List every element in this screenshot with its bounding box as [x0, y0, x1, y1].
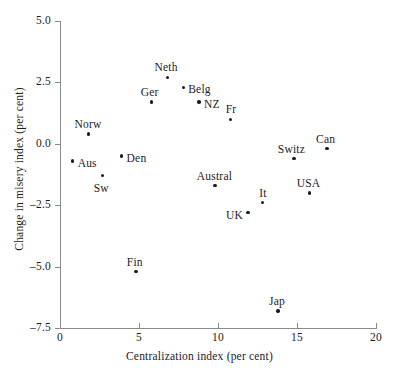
y-tick-label-wrap: 0.0 — [0, 138, 51, 150]
x-tick-label: 20 — [361, 331, 391, 344]
x-tick-label: 10 — [203, 331, 233, 344]
data-point-label: Sw — [94, 182, 109, 194]
data-point[interactable] — [71, 159, 74, 162]
x-tick-label: 15 — [282, 331, 312, 344]
data-point-label: USA — [297, 177, 321, 189]
y-tick-mark — [55, 144, 60, 145]
data-point-label: Switz — [278, 143, 305, 155]
x-tick-label: 0 — [45, 331, 75, 344]
y-tick-mark — [55, 328, 60, 329]
y-axis-title: Change in misery index (per cent) — [13, 64, 25, 274]
y-tick-label-wrap: –2.5 — [0, 199, 51, 211]
y-tick-label: –5.0 — [3, 261, 51, 273]
data-point[interactable] — [182, 86, 185, 89]
data-point-label: UK — [226, 209, 243, 221]
y-tick-mark — [55, 267, 60, 268]
data-point-label: Austral — [197, 170, 232, 182]
data-point[interactable] — [261, 201, 264, 204]
x-axis-title: Centralization index (per cent) — [0, 350, 399, 362]
data-point[interactable] — [308, 191, 311, 194]
data-point[interactable] — [87, 132, 90, 135]
y-tick-label: –2.5 — [3, 199, 51, 211]
data-point[interactable] — [197, 100, 200, 103]
y-axis-line — [60, 21, 61, 328]
data-point[interactable] — [246, 211, 249, 214]
y-tick-mark — [55, 21, 60, 22]
y-tick-mark — [55, 82, 60, 83]
x-tick-label: 5 — [124, 331, 154, 344]
data-point[interactable] — [229, 118, 232, 121]
data-point-label: Can — [316, 133, 335, 145]
data-point-label: Neth — [154, 61, 177, 73]
data-point-label: NZ — [204, 98, 220, 110]
data-point-label: Den — [127, 152, 147, 164]
data-point[interactable] — [325, 147, 328, 150]
data-point-label: Belg — [188, 83, 211, 95]
x-tick-mark — [376, 323, 377, 328]
data-point-label: It — [259, 187, 266, 199]
y-tick-mark — [55, 205, 60, 206]
data-point[interactable] — [101, 174, 104, 177]
y-tick-label-wrap: –5.0 — [0, 261, 51, 273]
data-point-label: Norw — [74, 118, 101, 130]
data-point-label: Aus — [78, 157, 97, 169]
x-tick-mark — [297, 323, 298, 328]
y-tick-label: 2.5 — [3, 76, 51, 88]
y-tick-label: 0.0 — [3, 138, 51, 150]
data-point-label: Fin — [127, 256, 143, 268]
data-point-label: Jap — [269, 295, 285, 307]
data-point[interactable] — [166, 76, 169, 79]
y-tick-label-wrap: 5.0 — [0, 15, 51, 27]
x-tick-mark — [218, 323, 219, 328]
y-tick-label: –7.5 — [3, 322, 51, 334]
data-point-label: Ger — [141, 86, 159, 98]
x-axis-line — [60, 328, 377, 329]
data-point-label: Fr — [226, 103, 237, 115]
data-point[interactable] — [276, 309, 279, 312]
y-tick-label: 5.0 — [3, 15, 51, 27]
y-tick-label-wrap: –7.5 — [0, 322, 51, 334]
data-point[interactable] — [213, 184, 216, 187]
data-point[interactable] — [134, 270, 137, 273]
y-tick-label-wrap: 2.5 — [0, 76, 51, 88]
data-point[interactable] — [292, 157, 295, 160]
x-tick-mark — [60, 323, 61, 328]
scatter-plot-figure: 5.02.50.0–2.5–5.0–7.5 05101520 AusNorwSw… — [0, 0, 399, 377]
data-point[interactable] — [150, 100, 153, 103]
x-tick-mark — [139, 323, 140, 328]
data-point[interactable] — [120, 154, 123, 157]
